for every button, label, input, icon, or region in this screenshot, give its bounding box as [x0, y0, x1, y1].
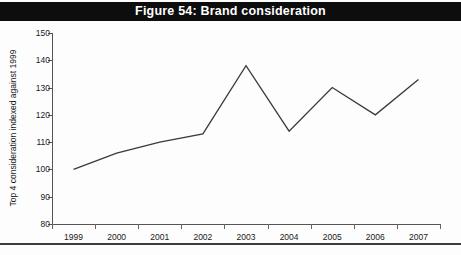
- x-axis-tick-label: 2002: [181, 233, 225, 242]
- y-axis-title: Top 4 consideration indexed against 1999: [8, 0, 20, 28]
- x-axis-tick-label: 1999: [52, 233, 96, 242]
- line-series: [52, 28, 442, 228]
- x-axis-tick-label: 2000: [95, 233, 139, 242]
- y-axis-tick-label: 130: [20, 84, 50, 93]
- y-axis-title-label: Top 4 consideration indexed against 1999: [8, 28, 18, 228]
- y-axis-tick-label: 90: [20, 193, 50, 202]
- bottom-divider: [0, 243, 461, 245]
- y-axis-tick-label: 100: [20, 165, 50, 174]
- x-axis-tick-label: 2005: [310, 233, 354, 242]
- series-polyline: [74, 66, 419, 170]
- x-axis-tick-label: 2006: [353, 233, 397, 242]
- plot-area: 8090100110120130140150 19992000200120022…: [52, 28, 442, 228]
- x-axis-tick-label: 2003: [224, 233, 268, 242]
- x-axis-tick-label: 2004: [267, 233, 311, 242]
- x-axis-tick-label: 2007: [396, 233, 440, 242]
- figure-title-bar: Figure 54: Brand consideration: [0, 2, 461, 21]
- y-axis-tick-label: 150: [20, 29, 50, 38]
- y-axis-tick-label: 110: [20, 138, 50, 147]
- y-axis-tick-label: 120: [20, 111, 50, 120]
- x-axis-tick-label: 2001: [138, 233, 182, 242]
- y-axis-tick-label: 80: [20, 220, 50, 229]
- page-title: Figure 54: Brand consideration: [135, 5, 326, 18]
- y-axis-tick-label: 140: [20, 56, 50, 65]
- figure-container: Figure 54: Brand consideration Top 4 con…: [0, 0, 461, 255]
